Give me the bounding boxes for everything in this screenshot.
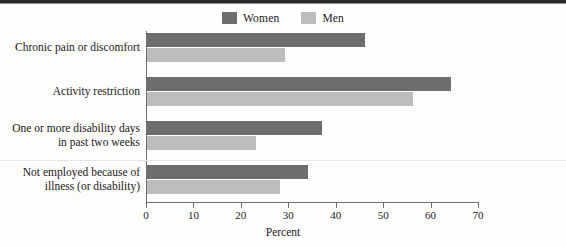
category-label-line1: Activity restriction xyxy=(0,85,140,99)
legend-swatch-women-icon xyxy=(222,12,237,24)
x-tick-mark xyxy=(146,203,147,208)
x-tick-mark xyxy=(193,203,194,208)
bar-men xyxy=(147,48,285,62)
x-tick-mark xyxy=(383,203,384,208)
chart-legend: Women Men xyxy=(0,10,566,26)
legend-label-women: Women xyxy=(243,12,279,24)
bar-women xyxy=(147,121,322,135)
category-label: One or more disability days in past two … xyxy=(0,122,140,149)
bar-men xyxy=(147,180,280,194)
x-tick-mark xyxy=(288,203,289,208)
chart-figure: Women Men Chronic pain or discomfort Act… xyxy=(0,0,566,247)
figure-separator-rule xyxy=(0,160,566,161)
x-axis-title: Percent xyxy=(0,226,566,238)
bar-women xyxy=(147,33,365,47)
x-tick-label: 0 xyxy=(143,209,149,222)
x-tick-label: 70 xyxy=(473,209,484,222)
x-tick-mark xyxy=(336,203,337,208)
x-tick-mark xyxy=(241,203,242,208)
bar-men xyxy=(147,92,413,106)
x-tick-label: 50 xyxy=(378,209,389,222)
x-tick-label: 10 xyxy=(188,209,199,222)
category-label-line1: One or more disability days xyxy=(0,122,140,136)
category-label-line1: Not employed because of xyxy=(0,166,140,180)
x-tick-label: 30 xyxy=(283,209,294,222)
x-tick-label: 60 xyxy=(425,209,436,222)
x-tick-mark xyxy=(478,203,479,208)
bar-women xyxy=(147,77,451,91)
legend-swatch-men-icon xyxy=(301,12,316,24)
category-label-line2: illness (or disability) xyxy=(0,180,140,194)
category-label-line1: Chronic pain or discomfort xyxy=(0,41,140,55)
legend-item-men: Men xyxy=(301,12,344,24)
x-tick-label: 20 xyxy=(235,209,246,222)
bar-men xyxy=(147,136,256,150)
x-tick-mark xyxy=(431,203,432,208)
category-label: Not employed because of illness (or disa… xyxy=(0,166,140,193)
page-top-rule-thin xyxy=(0,3,566,4)
category-label: Chronic pain or discomfort xyxy=(0,41,140,55)
category-label: Activity restriction xyxy=(0,85,140,99)
bar-women xyxy=(147,165,308,179)
legend-item-women: Women xyxy=(222,12,279,24)
legend-label-men: Men xyxy=(322,12,344,24)
x-tick-label: 40 xyxy=(330,209,341,222)
category-label-line2: in past two weeks xyxy=(0,136,140,150)
value-axis-line xyxy=(146,202,479,203)
